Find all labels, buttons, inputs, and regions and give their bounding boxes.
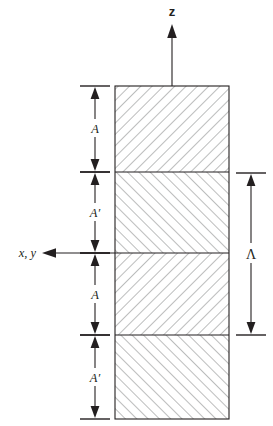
dim-lambda-label: Λ — [246, 247, 257, 262]
layer-2-hatch — [115, 172, 229, 253]
dimension-a-2: A — [80, 253, 110, 335]
dim-lambda-arrowhead-down-icon — [247, 322, 256, 334]
dimension-period-lambda: Λ — [236, 173, 266, 335]
dim-aprime-2-label: A′ — [89, 371, 101, 385]
dim-aprime-2-arrowhead-up-icon — [91, 336, 100, 348]
layer-3-hatch — [115, 253, 229, 335]
dim-aprime-1-base: A — [89, 206, 98, 220]
z-axis-arrowhead-icon — [167, 24, 177, 38]
dim-a-1-arrowhead-up-icon — [91, 87, 100, 99]
dim-a-2-label: A — [90, 288, 99, 302]
dim-aprime-2-arrowhead-down-icon — [91, 406, 100, 418]
xy-axis-arrowhead-icon — [42, 248, 56, 258]
z-axis-label: z — [169, 4, 176, 19]
dim-aprime-2-base: A — [89, 371, 98, 385]
diagram-canvas: z x, y — [0, 0, 273, 426]
dim-lambda-arrowhead-up-icon — [247, 174, 256, 186]
dimension-a-prime-2: A′ — [80, 335, 110, 419]
dim-aprime-1-prime-icon: ′ — [97, 206, 100, 220]
dim-a-1-label: A — [90, 122, 99, 136]
layered-structure-diagram: z x, y — [0, 0, 273, 426]
z-axis-group: z — [167, 4, 177, 86]
dim-aprime-1-arrowhead-down-icon — [91, 240, 100, 252]
dim-aprime-2-prime-icon: ′ — [97, 371, 100, 385]
xy-axis-label: x, y — [18, 246, 37, 260]
layer-stack — [115, 86, 229, 419]
dim-aprime-1-arrowhead-up-icon — [91, 173, 100, 185]
dim-aprime-1-label: A′ — [89, 206, 101, 220]
dim-a-2-arrowhead-down-icon — [91, 322, 100, 334]
dimension-a-prime-1: A′ — [80, 172, 110, 253]
dim-a-2-arrowhead-up-icon — [91, 254, 100, 266]
dim-a-1-arrowhead-down-icon — [91, 159, 100, 171]
layer-1-hatch — [115, 86, 229, 172]
layer-4-hatch — [115, 335, 229, 419]
dimension-a-1: A — [80, 86, 110, 172]
